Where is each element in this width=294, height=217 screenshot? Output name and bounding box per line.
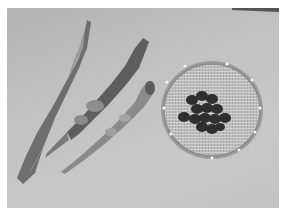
photo: Grayscale photograph of three dried bean…	[7, 8, 279, 208]
table-edge	[232, 8, 279, 12]
photo-scene	[7, 8, 279, 208]
